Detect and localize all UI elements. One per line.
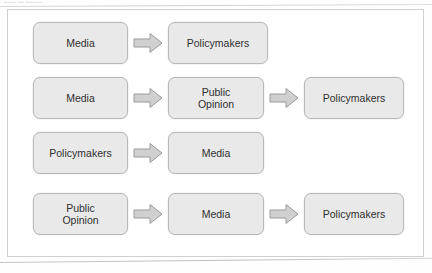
flow-arrow-right-icon <box>264 77 304 119</box>
flow-row-policymakers-to-media: PolicymakersMedia <box>33 131 264 175</box>
flow-node: Media <box>168 132 264 174</box>
flow-arrow-right-icon <box>128 193 168 235</box>
flow-node: Policymakers <box>168 22 268 64</box>
flow-row-media-to-policymakers: MediaPolicymakers <box>33 21 268 65</box>
scanned-figure-page: ▪▪▪▪▪▪ ▪▪▪ ▪▪▪▪▪▪▪▪ MediaPolicymakersMed… <box>0 0 432 273</box>
flow-node: Media <box>33 77 128 119</box>
flow-row-public-opinion-to-media-to-policymakers: Public OpinionMediaPolicymakers <box>33 192 404 236</box>
flow-node: Public Opinion <box>168 77 264 119</box>
flow-node: Media <box>168 193 264 235</box>
flow-arrow-right-icon <box>264 193 304 235</box>
scan-artifact-top-text: ▪▪▪▪▪▪ ▪▪▪ ▪▪▪▪▪▪▪▪ <box>4 0 154 5</box>
flow-arrow-right-icon <box>128 132 168 174</box>
flow-node: Public Opinion <box>33 193 128 235</box>
flow-row-media-to-public-opinion-to-policymakers: MediaPublic OpinionPolicymakers <box>33 76 404 120</box>
flow-node: Policymakers <box>304 193 404 235</box>
scan-artifact-bottom-rule <box>0 258 432 263</box>
flow-node: Policymakers <box>304 77 404 119</box>
flow-arrow-right-icon <box>128 77 168 119</box>
flow-node: Policymakers <box>33 132 128 174</box>
flow-node: Media <box>33 22 128 64</box>
flow-arrow-right-icon <box>128 22 168 64</box>
